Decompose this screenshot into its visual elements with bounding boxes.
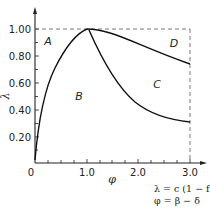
region-b-label: B <box>75 90 83 103</box>
phase-diagram: 1.00 0.80 0.60 0.40 0.20 0 1.0 2.0 3.0 φ… <box>0 0 210 211</box>
region-d-label: D <box>170 37 178 50</box>
x-tick-3-0: 3.0 <box>182 167 198 178</box>
region-c-label: C <box>153 78 161 91</box>
y-tick-0-20: 0.20 <box>9 132 31 143</box>
y-tick-1-00: 1.00 <box>9 24 31 35</box>
x-tick-1-0: 1.0 <box>79 167 95 178</box>
formula-phi: φ = β − δ <box>154 195 200 206</box>
x-axis-label: φ <box>108 173 116 186</box>
formula-lambda: λ = c (1 − f) <box>154 183 210 194</box>
x-tick-2-0: 2.0 <box>130 167 146 178</box>
y-tick-0-80: 0.80 <box>9 51 31 62</box>
x-axis-arrow-icon <box>200 161 207 165</box>
x-tick-0: 0 <box>28 167 34 178</box>
region-a-label: A <box>43 35 52 48</box>
y-tick-0-40: 0.40 <box>9 105 31 116</box>
y-axis-label: λ <box>0 93 12 101</box>
y-tick-0-60: 0.60 <box>9 78 31 89</box>
y-axis-arrow-icon <box>33 7 37 14</box>
x-ticks <box>48 159 190 163</box>
